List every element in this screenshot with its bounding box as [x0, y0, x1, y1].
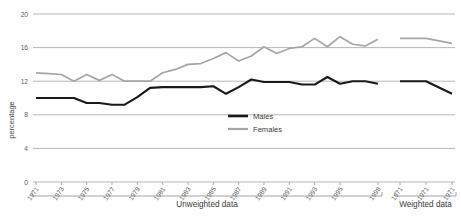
x-axis-ticks — [36, 182, 452, 185]
y-tick-8: 8 — [24, 111, 28, 118]
group-labels: Unweighted dataWeighted data — [176, 200, 452, 209]
x-tick-label-11: 1993 — [304, 185, 318, 201]
legend-label-males: Males — [253, 112, 273, 121]
x-tick-label-1: 1973 — [51, 185, 65, 201]
group-label-0: Unweighted data — [176, 200, 238, 209]
series-line-males-weighted — [400, 81, 452, 94]
x-axis-tick-labels: 1971197319751977197919811983198519871989… — [26, 185, 456, 201]
x-tick-label-10: 1991 — [279, 185, 293, 201]
percentage-line-chart: 048121620 percentage 1971197319751977197… — [0, 0, 461, 223]
legend-label-females: Females — [253, 125, 282, 134]
x-tick-label-2: 1975 — [76, 185, 90, 201]
gridlines-group — [33, 14, 455, 182]
y-tick-20: 20 — [21, 11, 29, 18]
x-tick-label-0: 1971 — [26, 185, 40, 201]
y-axis-title: percentage — [7, 101, 16, 139]
data-series-group — [36, 37, 452, 105]
group-label-1: Weighted data — [399, 200, 452, 209]
x-tick-label-5: 1981 — [152, 185, 166, 201]
x-tick-label-12: 1995 — [330, 185, 344, 201]
series-line-females-unweighted — [36, 37, 378, 82]
y-tick-12: 12 — [21, 78, 29, 85]
x-tick-label-9: 1989 — [254, 185, 268, 201]
x-tick-label-3: 1977 — [102, 185, 116, 201]
y-tick-4: 4 — [24, 145, 28, 152]
x-tick-label-13: 1998 — [368, 185, 382, 201]
x-tick-label-4: 1979 — [127, 185, 141, 201]
series-line-females-weighted — [400, 38, 452, 43]
y-tick-0: 0 — [24, 179, 28, 186]
y-axis-tick-labels: 048121620 — [21, 11, 29, 186]
chart-container: 048121620 percentage 1971197319751977197… — [0, 0, 461, 223]
y-tick-16: 16 — [21, 44, 29, 51]
